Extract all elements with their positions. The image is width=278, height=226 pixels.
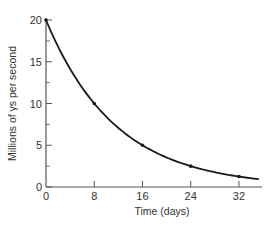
data-point	[237, 175, 241, 179]
x-tick-label: 24	[185, 190, 197, 202]
data-point	[92, 102, 96, 106]
x-tick-label: 16	[136, 190, 148, 202]
y-tick-label: 10	[30, 98, 42, 110]
y-tick-label: 0	[36, 181, 42, 193]
x-tick-label: 0	[43, 190, 49, 202]
x-tick-label: 32	[233, 190, 245, 202]
y-axis-label: Millions of γs per second	[6, 46, 18, 161]
x-tick-label: 8	[91, 190, 97, 202]
y-tick-label: 15	[30, 56, 42, 68]
decay-curve	[46, 20, 259, 179]
decay-chart: 05101520 08162432 Time (days) Millions o…	[0, 0, 278, 226]
data-point	[44, 18, 48, 22]
data-point	[141, 143, 145, 147]
data-points	[44, 18, 241, 178]
data-point	[189, 164, 193, 168]
y-tick-label: 5	[36, 139, 42, 151]
x-axis-ticks: 08162432	[43, 181, 245, 202]
y-tick-label: 20	[30, 14, 42, 26]
x-axis-label: Time (days)	[134, 205, 189, 217]
